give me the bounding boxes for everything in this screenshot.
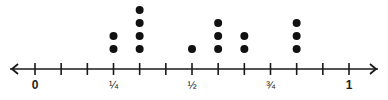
data-dot (214, 19, 222, 27)
tick-labels: 0¼½¾1 (32, 78, 353, 92)
data-dot (293, 19, 301, 27)
data-dot (240, 45, 248, 53)
tick-label: ¼ (109, 79, 119, 91)
data-dot (293, 32, 301, 40)
data-dot (214, 32, 222, 40)
data-dot (240, 32, 248, 40)
tick-label: ½ (187, 79, 196, 91)
data-dot (136, 45, 144, 53)
tick-label: 0 (32, 78, 39, 92)
data-dot (188, 45, 196, 53)
dot-plot: 0¼½¾1 (0, 0, 388, 100)
tick-label: ¾ (266, 79, 276, 91)
data-dot (110, 32, 118, 40)
data-dot (136, 19, 144, 27)
data-dot (214, 45, 222, 53)
data-dot (293, 45, 301, 53)
data-dot (110, 45, 118, 53)
tick-label: 1 (346, 78, 353, 92)
data-dots (110, 6, 301, 53)
data-dot (136, 6, 144, 14)
data-dot (136, 32, 144, 40)
